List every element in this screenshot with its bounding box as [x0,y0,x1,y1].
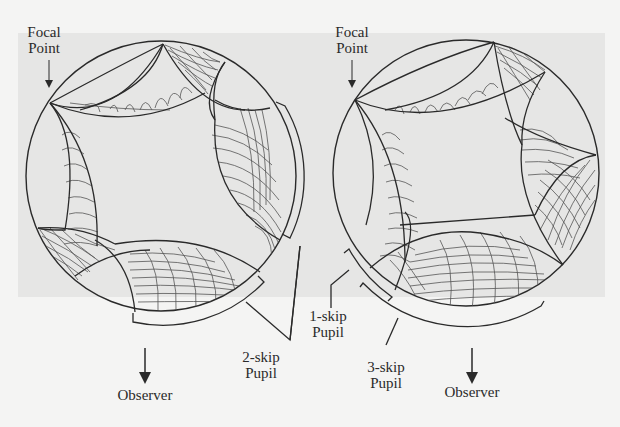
three-skip-label-line2: Pupil [354,375,418,391]
left-raindrop-diagram [26,41,304,378]
one-skip-label-line1: 1-skip [296,308,360,324]
three-skip-label-line1: 3-skip [354,359,418,375]
left-hatching [40,45,281,310]
one-skip-label-line2: Pupil [296,324,360,340]
one-skip-pupil-label: 1-skip Pupil [296,308,360,340]
right-focal-point-label: Focal Point [322,24,382,56]
left-focal-point-label: Focal Point [14,24,74,56]
left-drop-circle [26,41,296,311]
left-2-skip-pupil-brackets [133,102,304,340]
left-observer-label: Observer [100,387,190,403]
two-skip-label-line1: 2-skip [228,349,294,365]
caustic-diagram [0,0,620,427]
right-raindrop-diagram [331,40,599,378]
right-hatching [380,46,595,310]
right-observer-label: Observer [427,384,517,400]
right-focal-label-line1: Focal [322,24,382,40]
left-caustic-curves [38,44,280,312]
left-observer-text: Observer [100,387,190,403]
two-skip-pupil-label: 2-skip Pupil [228,349,294,381]
left-focal-label-line1: Focal [14,24,74,40]
left-focal-label-line2: Point [14,40,74,56]
right-focal-label-line2: Point [322,40,382,56]
two-skip-label-line2: Pupil [228,365,294,381]
right-observer-text: Observer [427,384,517,400]
three-skip-pupil-label: 3-skip Pupil [354,359,418,391]
